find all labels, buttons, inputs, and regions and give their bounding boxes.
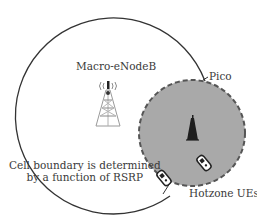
cell-boundary-note-line-2: by a function of RSRP [9,172,161,184]
cell-boundary-note: Cell boundary is determined by a functio… [9,160,161,183]
macro-enodeb-label: Macro-eNodeB [76,61,156,73]
heterogeneous-network-diagram: Macro-eNodeB Pico Cell boundary is deter… [0,0,257,222]
hotzone-ues-label: Hotzone UEs [189,188,257,200]
cell-tower-icon [96,81,120,126]
cell-boundary-note-line-1: Cell boundary is determined [9,160,161,172]
pico-label: Pico [209,71,232,83]
